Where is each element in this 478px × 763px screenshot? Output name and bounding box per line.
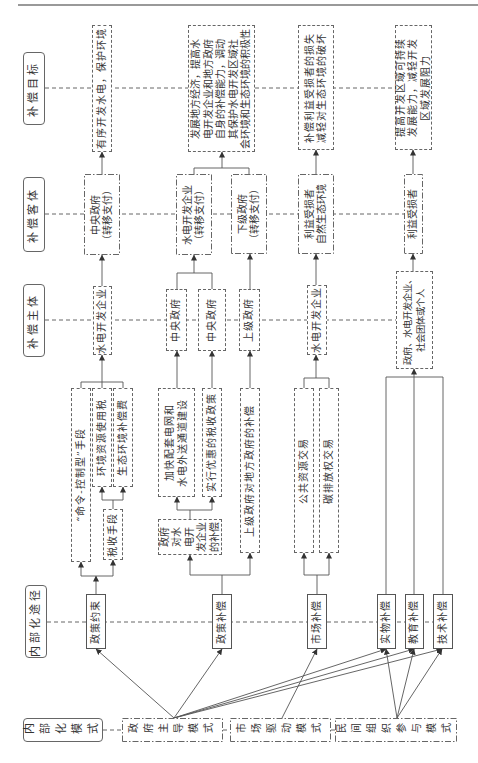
row-label-object-text: 补偿客体 xyxy=(28,187,41,243)
goal-text-line: 减轻对生态环境的破坏 xyxy=(316,33,329,143)
path-box-technical-compensation: 技术补偿 xyxy=(433,594,453,649)
measure-box-preferential-tax: 实行优惠的税收政策 xyxy=(202,388,222,497)
measure-box-eco-compensation-fee: 生态环境补偿费 xyxy=(113,388,133,487)
path-text: 技术补偿 xyxy=(437,600,450,644)
row-label-subject: 补偿主体 xyxy=(23,284,45,357)
goal-text-line: 补偿利益受损者的损失 xyxy=(304,33,317,143)
subject-text: 中央政府 xyxy=(206,298,219,342)
object-text-line: （转移支付） xyxy=(249,184,262,244)
object-text-line: （转移支付） xyxy=(102,185,115,245)
path-box-education-compensation: 教育补偿 xyxy=(405,594,424,649)
object-box-central-government: 中央政府 （转移支付） xyxy=(84,174,120,255)
row-label-subject-text: 补偿主体 xyxy=(28,293,41,349)
object-text-line: 利益受损者 xyxy=(407,189,420,239)
measure-text: 上级政府对地方政府的补偿 xyxy=(244,405,257,537)
row-label-object: 补偿客体 xyxy=(23,177,45,252)
subject-box-central-government-1: 中央政府 xyxy=(166,289,187,351)
measure-text: 生态环境补偿费 xyxy=(117,399,130,476)
measure-text: 环境资源使用税 xyxy=(96,399,109,476)
subject-text: 中央政府 xyxy=(170,298,183,342)
mode-text: 市场驱动模式 xyxy=(236,724,326,737)
row-label-path-text: 内部化途径 xyxy=(30,587,43,657)
goal-text-line: 发展能力，减轻开发 xyxy=(407,38,420,137)
mode-box-government-led: 政府主导模式 xyxy=(122,718,223,742)
object-box-affected-parties: 利益受损者 xyxy=(404,174,423,254)
goal-text-line: 会环境和生态环境的积极性 xyxy=(240,29,253,149)
measure-text: 税收手段 xyxy=(107,513,120,557)
measure-text-line: 政府 xyxy=(159,527,172,547)
measure-text: 公共资源交易 xyxy=(298,438,311,504)
measure-text-line: 发企业 xyxy=(196,522,209,552)
measure-text: 实行优惠的税收政策 xyxy=(206,393,219,492)
goal-box-compensate-losses: 补偿利益受损者的损失 减轻对生态环境的破坏 xyxy=(298,25,334,150)
path-text: 实物补偿 xyxy=(380,600,393,644)
goal-text-line: 电开发企业和地方政府 xyxy=(203,39,216,139)
object-text-line: 下级政府 xyxy=(237,194,250,234)
goal-box-sustainable-development: 提高开发区域可持续 发展能力，减轻开发 区域发展阻力 xyxy=(395,25,432,150)
measure-box-carbon-trading: 碳排放权交易 xyxy=(319,388,339,553)
measure-box-tax-means: 税收手段 xyxy=(103,509,123,560)
mode-box-market-driven: 市场驱动模式 xyxy=(230,718,331,742)
mode-text: 民间组织参与模式 xyxy=(336,724,456,737)
subject-box-upper-government: 上级政府 xyxy=(239,289,260,351)
path-text: 政策约束 xyxy=(90,600,103,644)
measure-text-line: 加快配套电网和 xyxy=(164,404,177,481)
goal-text: 有序开发水电，保护环境 xyxy=(96,28,109,149)
goal-box-orderly-development: 有序开发水电，保护环境 xyxy=(92,25,112,152)
goal-text-line: 自身的补偿能力，调动 xyxy=(215,39,228,139)
subject-text: 上级政府 xyxy=(243,298,256,342)
goal-text-line: 提高开发区域可持续 xyxy=(395,38,408,137)
row-label-path: 内部化途径 xyxy=(25,585,47,658)
object-text-line: （转移支付） xyxy=(194,185,207,245)
path-text: 教育补偿 xyxy=(408,600,421,644)
measure-text-line: 的补偿 xyxy=(209,522,222,552)
path-text: 市场补偿 xyxy=(311,600,324,644)
goal-text-line: 其保护水电开发区域社 xyxy=(228,39,241,139)
measure-text-line: 电开 xyxy=(184,527,197,547)
row-label-goal: 补偿目标 xyxy=(23,52,45,125)
subject-box-multi-party: 政府、水电开发企业、 社会团体或个人 xyxy=(396,271,433,369)
goal-box-local-economy: 发展地方经济，提高水 电开发企业和地方政府 自身的补偿能力，调动 其保护水电开发… xyxy=(188,25,255,152)
subject-text-line: 政府、水电开发企业、 xyxy=(402,275,415,365)
object-text-line: 中央政府 xyxy=(90,195,103,235)
goal-text-line: 区域发展阻力 xyxy=(420,55,433,121)
path-box-market-compensation: 市场补偿 xyxy=(307,594,327,649)
row-label-mode-text: 内部化模式 xyxy=(23,724,103,737)
goal-text-line: 发展地方经济，提高水 xyxy=(190,39,203,139)
measure-text-line: 水电外送通道建设 xyxy=(177,399,190,487)
object-text-line: 利益受损者 xyxy=(304,189,317,239)
measure-box-resource-tax: 环境资源使用税 xyxy=(92,388,112,487)
object-text-line: 水电开发企业 xyxy=(182,185,195,245)
measure-box-grid-construction: 加快配套电网和 水电外送通道建设 xyxy=(158,388,195,497)
measure-box-upper-to-local-compensation: 上级政府对地方政府的补偿 xyxy=(240,388,260,553)
measure-box-gov-compensation-enterprise: 政府 对水 电开 发企业 的补偿 xyxy=(158,519,222,555)
mode-text: 政府主导模式 xyxy=(128,724,218,737)
path-box-policy-constraint: 政策约束 xyxy=(86,594,106,649)
subject-text-line: 社会团体或个人 xyxy=(415,289,428,352)
path-box-policy-compensation: 政策补偿 xyxy=(212,594,232,649)
subject-box-hydropower-enterprise-2: 水电开发企业 xyxy=(307,285,327,355)
measure-text-line: 对水 xyxy=(171,527,184,547)
object-box-lower-government: 下级政府 （转移支付） xyxy=(231,174,267,254)
measure-box-command-control: “命令-控制型”手段 xyxy=(71,388,91,562)
compensation-internalization-diagram: 补偿目标 补偿客体 补偿主体 内部化途径 内部化模式 有序开发水电，保护环境 发… xyxy=(0,0,478,763)
subject-box-hydropower-enterprise: 水电开发企业 xyxy=(93,286,112,355)
row-label-mode: 内部化模式 xyxy=(23,718,103,742)
object-box-affected-parties-ecology: 利益受损者 自然生态环境 xyxy=(298,174,334,254)
path-text: 政策补偿 xyxy=(216,600,229,644)
measure-box-public-resource-trading: 公共资源交易 xyxy=(294,388,314,553)
subject-box-central-government-2: 中央政府 xyxy=(198,289,226,351)
object-box-hydropower-enterprise: 水电开发企业 （转移支付） xyxy=(176,174,212,255)
subject-text: 水电开发企业 xyxy=(96,288,109,354)
path-box-in-kind-compensation: 实物补偿 xyxy=(377,594,396,649)
measure-text: 碳排放权交易 xyxy=(323,438,336,504)
measure-text: “命令-控制型”手段 xyxy=(75,428,88,522)
row-label-goal-text: 补偿目标 xyxy=(28,61,41,117)
subject-text: 水电开发企业 xyxy=(311,287,324,353)
object-text-line: 自然生态环境 xyxy=(316,184,329,244)
mode-box-civil-participation: 民间组织参与模式 xyxy=(335,718,457,742)
